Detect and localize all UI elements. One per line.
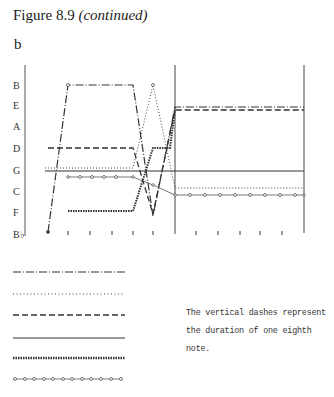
svg-text:A: A <box>13 121 21 132</box>
svg-text:G: G <box>13 165 20 176</box>
start-point <box>46 230 50 234</box>
svg-text:B♭: B♭ <box>13 229 25 240</box>
series-dash-dot <box>48 85 304 232</box>
series-circle-marked <box>68 177 304 195</box>
svg-text:B: B <box>13 80 20 91</box>
legend <box>13 272 125 381</box>
caption-line-1: The vertical dashes represent <box>186 304 334 322</box>
svg-text:E: E <box>13 100 19 111</box>
svg-text:D: D <box>13 143 20 154</box>
svg-text:C: C <box>13 186 20 197</box>
y-axis-labels: B E A D G C F B♭ <box>13 80 25 240</box>
caption-line-2: the duration of one eighth note. <box>186 322 334 358</box>
caption: The vertical dashes represent the durati… <box>186 304 334 358</box>
svg-text:F: F <box>13 207 19 218</box>
series-dashed <box>48 110 304 214</box>
series-x-marked <box>68 110 175 211</box>
